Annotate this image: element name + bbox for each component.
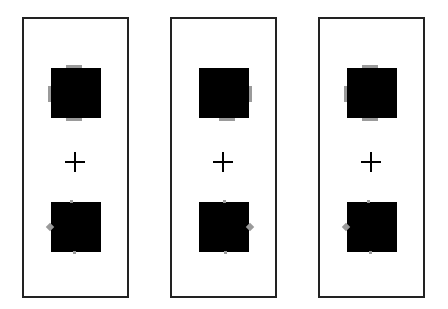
top-dot-marker xyxy=(223,200,226,203)
fixation-cross xyxy=(65,152,85,172)
bottom-square xyxy=(199,202,249,252)
left-diamond-marker xyxy=(342,223,350,231)
stimulus-panel-3 xyxy=(318,17,425,298)
stimulus-panel-2 xyxy=(170,17,277,298)
top-square xyxy=(347,68,397,118)
bottom-dot-marker xyxy=(224,251,227,254)
top-dot-marker xyxy=(367,200,370,203)
fixation-cross xyxy=(213,152,233,172)
left-bar-marker xyxy=(344,86,347,102)
bottom-bar-marker xyxy=(219,118,235,121)
top-bar-marker xyxy=(66,65,82,68)
top-bar-marker xyxy=(362,65,378,68)
bottom-square xyxy=(347,202,397,252)
left-bar-marker xyxy=(48,86,51,102)
bottom-square xyxy=(51,202,101,252)
stimulus-panel-1 xyxy=(22,17,129,298)
fixation-cross xyxy=(361,152,381,172)
top-square xyxy=(199,68,249,118)
bottom-bar-marker xyxy=(66,118,82,121)
left-diamond-marker xyxy=(46,223,54,231)
bottom-dot-marker xyxy=(73,251,76,254)
bottom-dot-marker xyxy=(369,251,372,254)
top-square xyxy=(51,68,101,118)
bottom-bar-marker xyxy=(362,118,378,121)
right-diamond-marker xyxy=(246,223,254,231)
top-dot-marker xyxy=(70,200,73,203)
right-bar-marker xyxy=(249,86,252,102)
